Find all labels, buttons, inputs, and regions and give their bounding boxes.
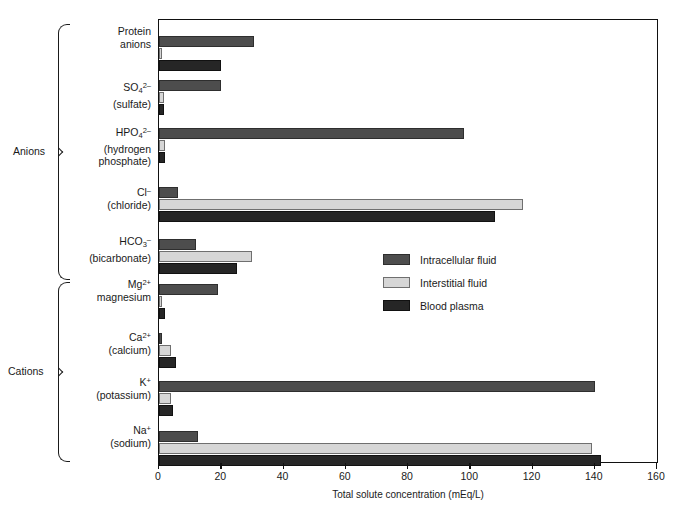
x-tick bbox=[345, 463, 346, 469]
legend-swatch-intracellular bbox=[383, 254, 410, 265]
x-tick bbox=[158, 463, 159, 469]
cat-label-line2: (hydrogen bbox=[41, 143, 151, 156]
bar-interstitial bbox=[159, 393, 171, 404]
bar-plasma bbox=[159, 357, 176, 368]
cat-label-line2: anions bbox=[41, 38, 151, 51]
bar-intracellular bbox=[159, 284, 218, 295]
bar-plasma bbox=[159, 211, 495, 222]
legend-swatch-interstitial bbox=[383, 277, 410, 288]
cat-label-formula: K+ bbox=[41, 375, 151, 389]
x-tick-label: 0 bbox=[138, 470, 178, 482]
cat-label-formula: HPO42– bbox=[41, 125, 151, 143]
x-tick bbox=[283, 463, 284, 469]
bar-intracellular bbox=[159, 381, 595, 392]
x-tick-label: 20 bbox=[200, 470, 240, 482]
legend-item-plasma: Blood plasma bbox=[383, 298, 496, 313]
cat-label-formula: SO42– bbox=[41, 80, 151, 98]
legend-swatch-plasma bbox=[383, 300, 410, 311]
bar-plasma bbox=[159, 405, 173, 416]
bar-interstitial bbox=[159, 48, 162, 59]
legend-label-plasma: Blood plasma bbox=[420, 300, 484, 312]
bar-interstitial bbox=[159, 345, 171, 356]
bar-interstitial bbox=[159, 296, 162, 307]
cat-label-line3: phosphate) bbox=[41, 155, 151, 168]
bar-intracellular bbox=[159, 333, 162, 344]
bar-interstitial bbox=[159, 92, 164, 103]
x-tick-label: 100 bbox=[449, 470, 489, 482]
x-tick-label: 160 bbox=[636, 470, 676, 482]
x-tick bbox=[407, 463, 408, 469]
x-tick bbox=[594, 463, 595, 469]
x-tick bbox=[532, 463, 533, 469]
bar-intracellular bbox=[159, 128, 464, 139]
cat-label-potassium: K+ (potassium) bbox=[41, 375, 151, 401]
bar-intracellular bbox=[159, 36, 254, 47]
x-tick-label: 140 bbox=[574, 470, 614, 482]
cat-label-formula: Cl– bbox=[41, 185, 151, 199]
bar-plasma bbox=[159, 152, 165, 163]
plot-area bbox=[158, 19, 658, 463]
bar-interstitial bbox=[159, 251, 252, 262]
x-tick bbox=[656, 463, 657, 469]
x-tick-label: 60 bbox=[325, 470, 365, 482]
cat-label-sodium: Na+ (sodium) bbox=[41, 423, 151, 449]
x-tick-label: 120 bbox=[512, 470, 552, 482]
legend: Intracellular fluid Interstitial fluid B… bbox=[383, 252, 496, 321]
cat-label-formula: Mg2+ bbox=[41, 277, 151, 291]
cat-label-line2: (sodium) bbox=[41, 437, 151, 450]
bar-plasma bbox=[159, 263, 237, 274]
x-tick bbox=[220, 463, 221, 469]
cat-label-hydrogen-phosphate: HPO42– (hydrogen phosphate) bbox=[41, 125, 151, 168]
cat-label-line2: (calcium) bbox=[41, 344, 151, 357]
cat-label-line1: Protein bbox=[41, 25, 151, 38]
cat-label-magnesium: Mg2+ magnesium bbox=[41, 277, 151, 303]
bar-plasma bbox=[159, 104, 164, 115]
cat-label-calcium: Ca2+ (calcium) bbox=[41, 330, 151, 356]
legend-item-interstitial: Interstitial fluid bbox=[383, 275, 496, 290]
bar-intracellular bbox=[159, 187, 178, 198]
bar-intracellular bbox=[159, 239, 196, 250]
x-tick bbox=[469, 463, 470, 469]
legend-item-intracellular: Intracellular fluid bbox=[383, 252, 496, 267]
cat-label-bicarbonate: HCO3– (bicarbonate) bbox=[41, 234, 151, 264]
bar-plasma bbox=[159, 308, 165, 319]
cat-label-formula: Ca2+ bbox=[41, 330, 151, 344]
bar-intracellular bbox=[159, 80, 221, 91]
cat-label-sulfate: SO42– (sulfate) bbox=[41, 80, 151, 110]
cat-label-line2: (chloride) bbox=[41, 199, 151, 212]
cat-label-protein-anions: Protein anions bbox=[41, 25, 151, 50]
x-axis-title: Total solute concentration (mEq/L) bbox=[158, 489, 658, 500]
bar-interstitial bbox=[159, 443, 592, 454]
group-label-cations: Cations bbox=[8, 365, 44, 377]
cat-label-line2: magnesium bbox=[41, 291, 151, 304]
legend-label-interstitial: Interstitial fluid bbox=[420, 277, 487, 289]
cat-label-formula: HCO3– bbox=[41, 234, 151, 252]
solute-concentration-chart: Anions Cations Protein anions SO42– (sul… bbox=[0, 0, 678, 519]
cat-label-line2: (sulfate) bbox=[41, 98, 151, 111]
bar-interstitial bbox=[159, 140, 165, 151]
bar-plasma bbox=[159, 60, 221, 71]
cat-label-line2: (bicarbonate) bbox=[41, 252, 151, 265]
bar-intracellular bbox=[159, 431, 198, 442]
bar-interstitial bbox=[159, 199, 523, 210]
bar-plasma bbox=[159, 455, 601, 466]
x-tick-label: 40 bbox=[263, 470, 303, 482]
cat-label-chloride: Cl– (chloride) bbox=[41, 185, 151, 211]
legend-label-intracellular: Intracellular fluid bbox=[420, 254, 496, 266]
cat-label-formula: Na+ bbox=[41, 423, 151, 437]
x-tick-label: 80 bbox=[387, 470, 427, 482]
cat-label-line2: (potassium) bbox=[41, 389, 151, 402]
